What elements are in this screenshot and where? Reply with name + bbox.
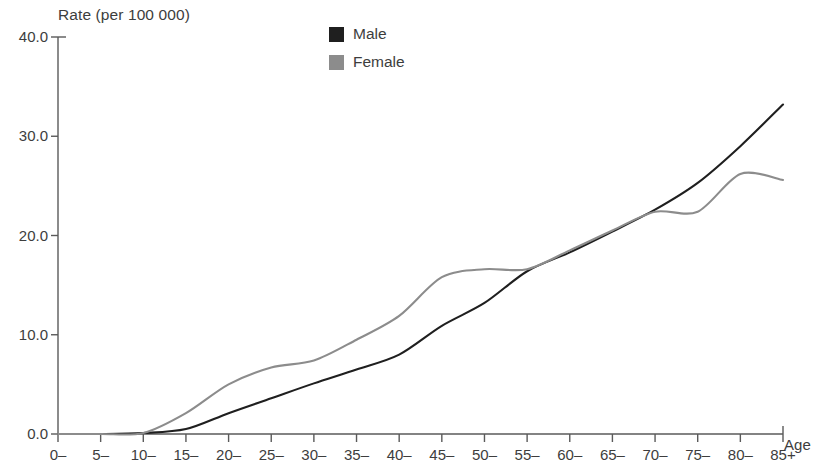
y-axis-ticks <box>51 37 58 434</box>
legend-label-male: Male <box>353 26 387 42</box>
x-axis-tick-label: 10– <box>131 446 156 460</box>
x-axis-tick-label: 45– <box>429 446 454 460</box>
x-axis-tick-label: 20– <box>216 446 241 460</box>
data-series-group <box>58 104 783 434</box>
x-axis-tick-label: 35– <box>344 446 369 460</box>
legend-item-female: Female <box>329 48 405 76</box>
chart-container: Rate (per 100 000) Age 0.010.020.030.040… <box>0 0 814 460</box>
legend-label-female: Female <box>353 54 405 70</box>
series-line-male <box>58 104 783 434</box>
y-axis-title: Rate (per 100 000) <box>58 6 190 24</box>
y-axis-tick-label: 30.0 <box>2 127 48 144</box>
x-axis-tick-label: 60– <box>557 446 582 460</box>
chart-legend: Male Female <box>329 20 405 76</box>
y-axis-tick-label: 40.0 <box>2 28 48 45</box>
x-axis-tick-label: 15– <box>173 446 198 460</box>
series-line-female <box>58 173 783 435</box>
x-axis-tick-label: 65– <box>600 446 625 460</box>
x-axis-tick-label: 85+ <box>770 446 795 460</box>
legend-item-male: Male <box>329 20 405 48</box>
y-axis-tick-label: 20.0 <box>2 227 48 244</box>
x-axis-tick-label: 70– <box>643 446 668 460</box>
x-axis-tick-label: 0– <box>50 446 67 460</box>
y-axis-tick-label: 0.0 <box>2 425 48 442</box>
x-axis-tick-label: 55– <box>515 446 540 460</box>
x-axis-tick-label: 50– <box>472 446 497 460</box>
axis-lines <box>58 37 783 434</box>
x-axis-tick-label: 25– <box>259 446 284 460</box>
chart-plot-area <box>0 0 814 460</box>
y-axis-tick-label: 10.0 <box>2 326 48 343</box>
x-axis-ticks <box>58 434 783 442</box>
legend-swatch-female <box>329 55 344 70</box>
x-axis-tick-label: 40– <box>387 446 412 460</box>
x-axis-tick-label: 80– <box>728 446 753 460</box>
x-axis-tick-label: 30– <box>301 446 326 460</box>
x-axis-tick-label: 75– <box>685 446 710 460</box>
x-axis-tick-label: 5– <box>92 446 109 460</box>
legend-swatch-male <box>329 27 344 42</box>
